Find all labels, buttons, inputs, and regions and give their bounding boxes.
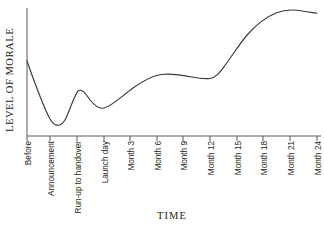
x-tick-label-text: Month 21	[285, 140, 299, 232]
x-axis-title: TIME	[132, 210, 212, 221]
x-tick-label-launch-day: Launch day	[99, 140, 113, 232]
x-tick-label-text: Month 18	[258, 140, 272, 232]
x-tick-label-text: Before	[22, 140, 36, 232]
x-tick-label-month-15: Month 15	[232, 140, 246, 232]
x-tick-label-run-up-to-handover: Run-up to handover	[72, 140, 86, 232]
x-tick-label-text: Announcement	[45, 140, 59, 232]
x-tick-label-value: Month 15	[232, 140, 246, 232]
x-tick-label-value: Run-up to handover	[72, 140, 86, 232]
x-tick-label-text: Launch day	[99, 140, 113, 232]
x-tick-label-text: Run-up to handover	[72, 140, 86, 232]
x-tick-label-month-21: Month 21	[285, 140, 299, 232]
morale-over-time-chart: LEVEL OF MORALE Before Announcement Run-…	[0, 0, 324, 236]
x-tick-label-value: Month 18	[258, 140, 272, 232]
x-tick-label-value: Announcement	[45, 140, 59, 232]
x-tick-label-value: Before	[22, 140, 36, 232]
y-axis-title: LEVEL OF MORALE	[2, 6, 18, 138]
x-axis-tick-marks	[27, 136, 317, 141]
x-tick-label-value: Month 24	[312, 140, 324, 232]
x-tick-label-month-18: Month 18	[258, 140, 272, 232]
x-tick-label-announcement: Announcement	[45, 140, 59, 232]
y-axis-title-wrap: LEVEL OF MORALE	[2, 6, 18, 138]
x-tick-label-text: Month 24	[312, 140, 324, 232]
x-tick-label-before: Before	[22, 140, 36, 232]
x-tick-label-value: Launch day	[99, 140, 113, 232]
x-tick-label-text: Month 15	[232, 140, 246, 232]
x-tick-label-month-24: Month 24	[312, 140, 324, 232]
x-tick-label-value: Month 21	[285, 140, 299, 232]
morale-line-series	[27, 10, 317, 125]
